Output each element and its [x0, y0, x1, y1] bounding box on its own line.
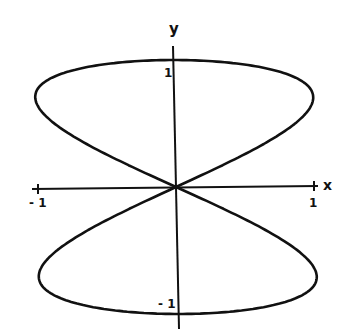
x-axis-label: x	[323, 178, 332, 192]
y-tick-label-pos-one: 1	[164, 67, 172, 79]
y-tick-label-neg-one: - 1	[158, 298, 176, 310]
x-tick-label-pos-one: 1	[309, 197, 317, 209]
plot-area	[0, 0, 348, 336]
y-axis-label: y	[169, 22, 179, 37]
x-tick-label-neg-one: - 1	[29, 197, 47, 209]
